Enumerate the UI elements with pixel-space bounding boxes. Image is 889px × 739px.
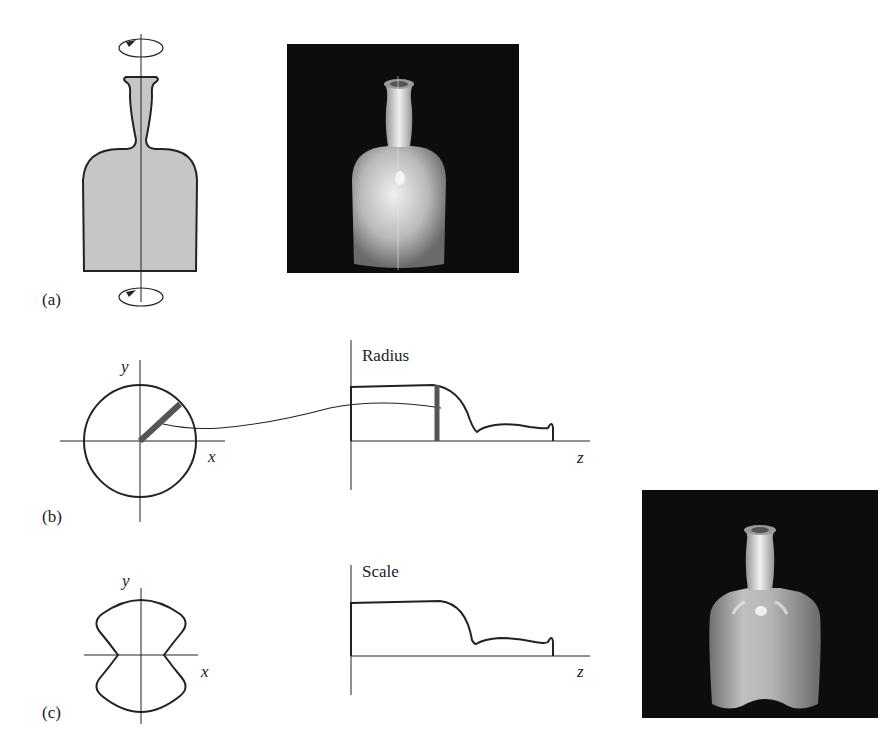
radius-graph-title: Radius — [362, 346, 409, 365]
radius-bar — [140, 404, 180, 441]
render-c — [642, 490, 878, 718]
panel-label-a: (a) — [42, 290, 61, 309]
radius-profile-curve — [351, 385, 553, 441]
panel-b: y x Radius z (b) — [42, 340, 590, 526]
radius-graph-z-label: z — [576, 448, 584, 467]
scale-graph-title: Scale — [362, 562, 399, 581]
panel-label-c: (c) — [42, 703, 61, 722]
panel-label-b: (b) — [42, 507, 62, 526]
bottle-profile — [83, 77, 197, 271]
x-axis-label-b: x — [207, 447, 216, 466]
scale-profile-curve — [351, 601, 553, 656]
panel-c: y x Scale z (c) — [42, 562, 590, 724]
scale-graph-z-label: z — [576, 662, 584, 681]
connector-curve — [163, 403, 441, 429]
render-a — [287, 44, 519, 273]
x-axis-label-c: x — [200, 662, 209, 681]
panel-a: (a) — [42, 34, 197, 309]
figure-canvas: (a) y x Radius z (b) — [0, 0, 889, 739]
y-axis-label-b: y — [119, 357, 129, 376]
y-axis-label-c: y — [120, 571, 130, 590]
